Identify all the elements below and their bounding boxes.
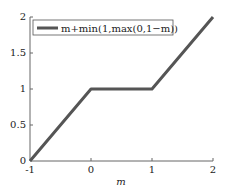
y-tick-label: 2 bbox=[20, 11, 26, 22]
y-tick-label: 1.5 bbox=[10, 47, 26, 58]
y-tick-label: 0 bbox=[20, 155, 26, 166]
x-axis-label: m bbox=[116, 176, 125, 187]
y-tick-label: 1 bbox=[20, 83, 26, 94]
series-line bbox=[30, 17, 213, 161]
x-tick-label: 2 bbox=[210, 164, 216, 175]
y-tick-label: 0.5 bbox=[10, 119, 26, 130]
legend-label: m+min(1,max(0,1−m)) bbox=[61, 23, 178, 34]
x-tick-label: -1 bbox=[25, 164, 35, 175]
legend: m+min(1,max(0,1−m)) bbox=[33, 20, 178, 35]
chart: -1 0 1 2 0 0.5 1 1.5 2 m m+min(1,max(0,1… bbox=[0, 0, 230, 195]
x-tick-label: 1 bbox=[149, 164, 155, 175]
x-tick-label: 0 bbox=[88, 164, 94, 175]
